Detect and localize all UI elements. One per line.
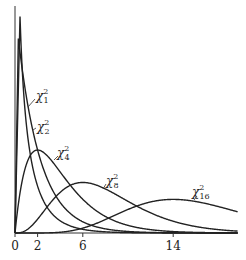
- label-chi2: χ22: [36, 118, 49, 136]
- tick-label-14: 14: [166, 239, 182, 253]
- leader-chi1: [28, 99, 35, 107]
- svg-text:χ24: χ24: [56, 144, 69, 162]
- chart-canvas: 0 2 6 14 χ21 χ22 χ24 χ28 χ216: [0, 0, 246, 260]
- svg-text:χ28: χ28: [105, 172, 118, 190]
- tick-label-6: 6: [79, 239, 87, 253]
- label-chi8: χ28: [105, 172, 118, 190]
- svg-text:χ22: χ22: [36, 118, 49, 136]
- tick-label-2: 2: [34, 239, 42, 253]
- chi-square-density-chart: 0 2 6 14 χ21 χ22 χ24 χ28 χ216: [0, 0, 246, 260]
- svg-text:χ21: χ21: [35, 87, 48, 105]
- label-chi4: χ24: [56, 144, 69, 162]
- label-chi1: χ21: [35, 87, 48, 105]
- tick-label-0: 0: [11, 239, 19, 253]
- svg-text:χ216: χ216: [191, 183, 210, 201]
- label-chi16: χ216: [191, 183, 210, 201]
- leader-chi2: [33, 128, 36, 130]
